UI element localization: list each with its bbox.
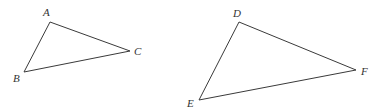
- triangle-def-shape: [199, 22, 356, 100]
- vertex-label-d: D: [232, 7, 241, 19]
- vertex-label-f: F: [360, 65, 368, 77]
- vertex-label-b: B: [13, 72, 20, 84]
- vertex-label-e: E: [186, 97, 194, 109]
- vertex-label-a: A: [42, 6, 50, 18]
- vertex-label-c: C: [134, 45, 142, 57]
- triangles-diagram: A B C D E F: [0, 0, 380, 112]
- triangle-def: D E F: [186, 7, 368, 109]
- triangle-abc: A B C: [13, 6, 142, 84]
- triangle-abc-shape: [24, 22, 130, 72]
